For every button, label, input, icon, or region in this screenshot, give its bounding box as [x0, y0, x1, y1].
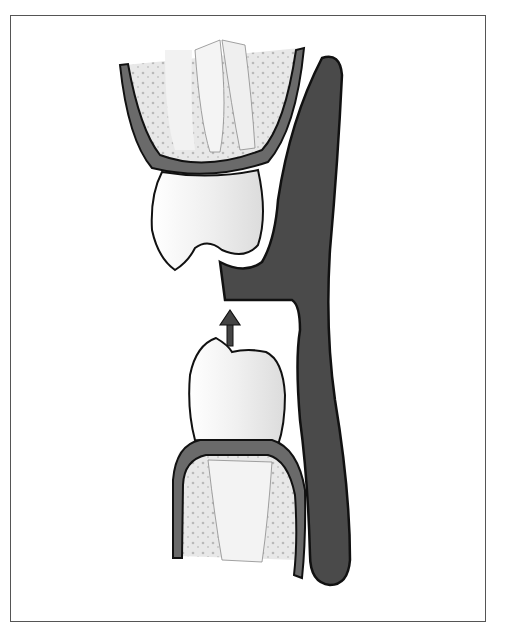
upper-tooth-crown: [152, 170, 263, 270]
upward-arrow-icon: [220, 310, 240, 346]
dental-illustration: [0, 0, 512, 636]
lower-bone: [178, 448, 298, 562]
lower-tooth-crown: [189, 338, 285, 445]
